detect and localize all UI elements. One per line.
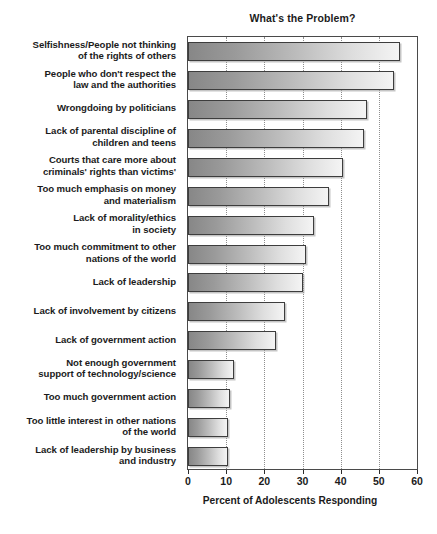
- category-axis-labels: Selfishness/People not thinkingof the ri…: [4, 36, 182, 470]
- category-label-line: criminals' rights than victims': [4, 166, 176, 177]
- category-label-line: Too much government action: [4, 391, 176, 402]
- bar: [188, 389, 230, 408]
- x-tick-mark: [417, 470, 418, 474]
- category-label: Lack of parental discipline ofchildren a…: [4, 125, 176, 148]
- x-axis: 0102030405060: [187, 470, 418, 496]
- bar: [188, 302, 285, 321]
- category-label-line: support of technology/science: [4, 368, 176, 379]
- bar: [188, 418, 228, 437]
- x-tick-label: 50: [364, 475, 394, 487]
- bars-layer: [188, 37, 417, 469]
- bar: [188, 216, 314, 235]
- x-tick-mark: [341, 470, 342, 474]
- category-label-line: Courts that care more about: [4, 154, 176, 165]
- category-label-line: nations of the world: [4, 253, 176, 264]
- category-label: Too little interest in other nationsof t…: [4, 415, 176, 438]
- category-label-line: and industry: [4, 455, 176, 466]
- category-label: Lack of morality/ethicsin society: [4, 212, 176, 235]
- category-label-line: of the rights of others: [4, 50, 176, 61]
- x-tick-mark: [188, 470, 189, 474]
- bar: [188, 273, 303, 292]
- x-tick-mark: [379, 470, 380, 474]
- category-label-line: Lack of leadership: [4, 276, 176, 287]
- category-label-line: Lack of leadership by business: [4, 444, 176, 455]
- category-label-line: Lack of involvement by citizens: [4, 305, 176, 316]
- category-label: People who don't respect thelaw and the …: [4, 68, 176, 91]
- category-label: Lack of involvement by citizens: [4, 305, 176, 316]
- category-label-line: and materialism: [4, 195, 176, 206]
- category-label-line: law and the authorities: [4, 79, 176, 90]
- bar: [188, 360, 234, 379]
- category-label: Too much emphasis on moneyand materialis…: [4, 183, 176, 206]
- category-label-line: Selfishness/People not thinking: [4, 39, 176, 50]
- category-label-line: People who don't respect the: [4, 68, 176, 79]
- x-tick-mark: [226, 470, 227, 474]
- x-tick-label: 0: [173, 475, 203, 487]
- category-label-line: Lack of morality/ethics: [4, 212, 176, 223]
- category-label-line: of the world: [4, 426, 176, 437]
- category-label-line: Lack of parental discipline of: [4, 125, 176, 136]
- category-label-line: children and teens: [4, 137, 176, 148]
- x-tick-label: 10: [211, 475, 241, 487]
- chart-title: What's the Problem?: [187, 12, 418, 24]
- x-tick-label: 20: [249, 475, 279, 487]
- category-label-line: Wrongdoing by politicians: [4, 102, 176, 113]
- category-label: Courts that care more aboutcriminals' ri…: [4, 154, 176, 177]
- category-label-line: Not enough government: [4, 357, 176, 368]
- bar: [188, 331, 276, 350]
- bar: [188, 245, 306, 264]
- category-label-line: Too much emphasis on money: [4, 183, 176, 194]
- x-tick-label: 40: [326, 475, 356, 487]
- x-tick-label: 60: [402, 475, 432, 487]
- plot-area: [187, 36, 418, 470]
- bar: [188, 42, 400, 61]
- bar: [188, 447, 228, 466]
- x-axis-title: Percent of Adolescents Responding: [150, 495, 430, 506]
- bar: [188, 187, 329, 206]
- category-label: Selfishness/People not thinkingof the ri…: [4, 39, 176, 62]
- category-label-line: in society: [4, 224, 176, 235]
- category-label: Too much commitment to othernations of t…: [4, 241, 176, 264]
- category-label-line: Too little interest in other nations: [4, 415, 176, 426]
- category-label: Too much government action: [4, 391, 176, 402]
- category-label: Not enough governmentsupport of technolo…: [4, 357, 176, 380]
- category-label: Lack of leadership by businessand indust…: [4, 444, 176, 467]
- category-label-line: Too much commitment to other: [4, 241, 176, 252]
- category-label: Lack of leadership: [4, 276, 176, 287]
- category-label-line: Lack of government action: [4, 334, 176, 345]
- bar-chart-figure: What's the Problem? Selfishness/People n…: [0, 0, 437, 534]
- category-label: Wrongdoing by politicians: [4, 102, 176, 113]
- category-label: Lack of government action: [4, 334, 176, 345]
- x-tick-label: 30: [288, 475, 318, 487]
- x-tick-mark: [264, 470, 265, 474]
- bar: [188, 71, 394, 90]
- bar: [188, 100, 367, 119]
- x-tick-mark: [303, 470, 304, 474]
- bar: [188, 129, 364, 148]
- bar: [188, 158, 343, 177]
